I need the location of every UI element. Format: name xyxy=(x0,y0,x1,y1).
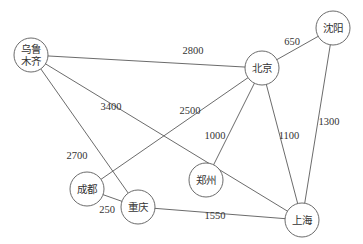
edge-weight-label: 2500 xyxy=(180,105,201,116)
edge-weight-label: 2800 xyxy=(183,45,204,56)
edge-urumqi-beijing xyxy=(31,55,262,68)
node-beijing: 北京 xyxy=(245,51,279,85)
node-urumqi: 乌鲁木齐 xyxy=(14,38,48,72)
node-label: 木齐 xyxy=(21,55,42,67)
node-label: 成都 xyxy=(77,183,98,195)
node-chongqing: 重庆 xyxy=(121,190,155,224)
node-chengdu: 成都 xyxy=(70,172,104,206)
node-label: 北京 xyxy=(252,62,272,74)
edge-weight-label: 1100 xyxy=(279,130,300,141)
node-label: 上海 xyxy=(292,214,313,226)
node-label: 郑州 xyxy=(196,174,216,186)
edge-beijing-chengdu xyxy=(87,68,262,189)
node-zhengzhou: 郑州 xyxy=(189,163,223,197)
node-label: 重庆 xyxy=(128,201,149,213)
edge-weight-label: 1300 xyxy=(319,116,340,127)
graph-canvas: 28003400270065025001000110013002501550 乌… xyxy=(0,0,363,244)
node-shenyang: 沈阳 xyxy=(316,11,350,45)
edge-beijing-shanghai xyxy=(262,68,302,220)
edge-weight-label: 650 xyxy=(284,36,300,47)
edge-weight-label: 250 xyxy=(99,204,115,215)
node-shanghai: 上海 xyxy=(285,203,319,237)
edge-weight-label: 2700 xyxy=(67,150,88,161)
node-label: 沈阳 xyxy=(323,22,343,34)
edge-weight-label: 1550 xyxy=(205,210,226,221)
graph-diagram: 28003400270065025001000110013002501550 乌… xyxy=(0,0,363,244)
edge-beijing-zhengzhou xyxy=(206,68,262,180)
node-label: 乌鲁 xyxy=(21,43,41,55)
edge-weight-label: 1000 xyxy=(205,130,226,141)
edge-weight-label: 3400 xyxy=(101,101,122,112)
